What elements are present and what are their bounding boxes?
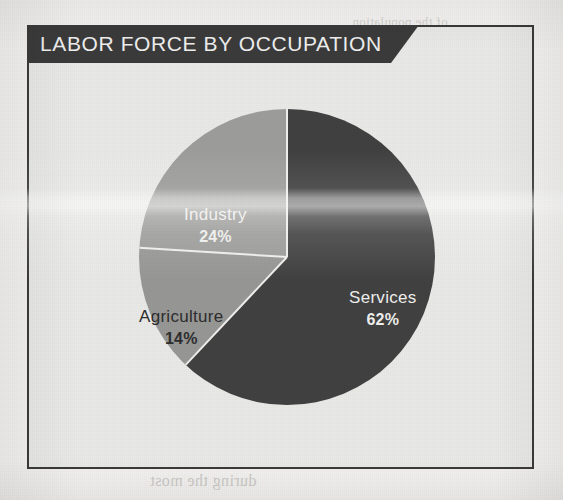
pie-label-agriculture-name: Agriculture bbox=[139, 306, 224, 328]
chart-panel: LABOR FORCE BY OCCUPATION Services 62% I… bbox=[27, 25, 534, 469]
chart-title-banner: LABOR FORCE BY OCCUPATION bbox=[27, 25, 419, 63]
scanned-page: of the population the largest was a sign… bbox=[0, 0, 563, 500]
pie-label-industry-value: 24% bbox=[184, 227, 247, 247]
pie-label-agriculture-value: 14% bbox=[139, 329, 224, 349]
pie-label-services-name: Services bbox=[349, 287, 417, 309]
pie-label-industry-name: Industry bbox=[184, 204, 247, 226]
pie-separator-top bbox=[286, 109, 288, 257]
bleed-text-line7: during the most bbox=[150, 472, 256, 490]
page-title: LABOR FORCE BY OCCUPATION bbox=[27, 32, 382, 56]
pie-label-agriculture: Agriculture 14% bbox=[139, 306, 224, 349]
pie-slices bbox=[139, 109, 435, 405]
pie-label-services-value: 62% bbox=[349, 310, 417, 330]
pie-label-services: Services 62% bbox=[349, 287, 417, 330]
pie-chart bbox=[139, 109, 435, 405]
pie-label-industry: Industry 24% bbox=[184, 204, 247, 247]
